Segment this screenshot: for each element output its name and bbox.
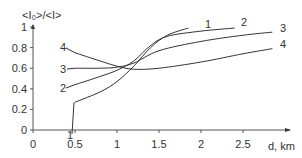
series-1-label-left: 1 bbox=[67, 129, 73, 141]
series-4-leader-line bbox=[66, 48, 75, 53]
x-tick-label: 2 bbox=[198, 138, 204, 150]
series-4-label-left: 4 bbox=[60, 41, 66, 53]
x-tick-label: 0 bbox=[30, 138, 36, 150]
series-1-line bbox=[75, 28, 188, 102]
x-tick-label: 2.5 bbox=[235, 138, 250, 150]
x-axis-title: d, km bbox=[268, 140, 295, 152]
x-axis-arrow-icon bbox=[285, 128, 291, 132]
series-2-label-right: 2 bbox=[241, 16, 247, 28]
curves bbox=[75, 28, 272, 102]
series-4-line bbox=[75, 49, 272, 70]
y-tick-label: 0.6 bbox=[12, 62, 27, 74]
y-tick-label: 1 bbox=[21, 21, 27, 33]
x-tick-label: 1.5 bbox=[151, 138, 166, 150]
series-1-label-right: 1 bbox=[205, 18, 211, 30]
series-3-leader-line bbox=[67, 68, 75, 69]
series-2-leader-line bbox=[66, 85, 75, 88]
series-3-label-left: 3 bbox=[60, 63, 66, 75]
y-tick-label: 0 bbox=[21, 124, 27, 136]
y-tick-label: 0.4 bbox=[12, 83, 27, 95]
y-tick-label: 0.8 bbox=[12, 42, 27, 54]
y-tick-label: 0.2 bbox=[12, 103, 27, 115]
series-2-label-left: 2 bbox=[60, 82, 66, 94]
y-axis-title: <I₀>/<I> bbox=[22, 9, 61, 21]
series-2-line bbox=[75, 28, 235, 85]
series-3-label-right: 3 bbox=[280, 22, 286, 34]
x-tick-label: 1 bbox=[114, 138, 120, 150]
line-chart: 00.20.40.60.8100.511.522.5 11223344 <I₀>… bbox=[0, 0, 302, 158]
series-4-label-right: 4 bbox=[280, 38, 286, 50]
axes: 00.20.40.60.8100.511.522.5 bbox=[12, 21, 291, 150]
